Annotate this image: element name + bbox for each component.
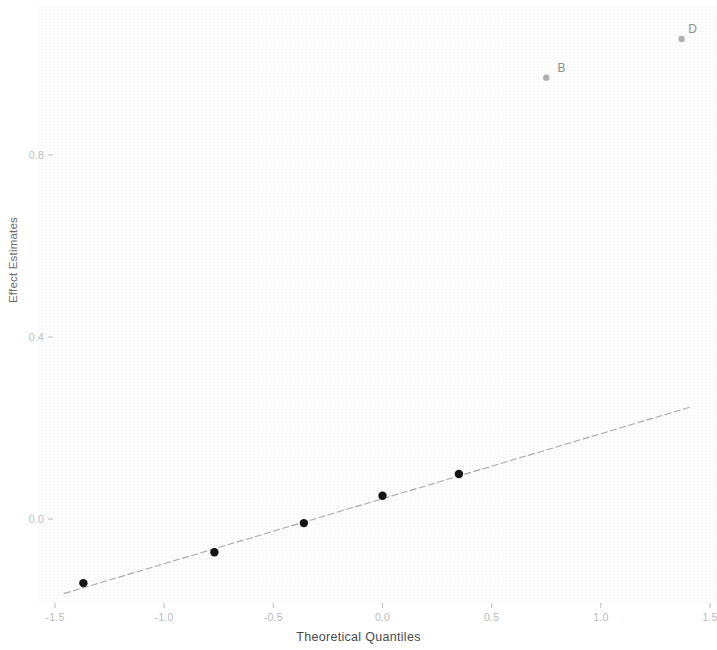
data-point-target[interactable]	[296, 515, 312, 531]
point-label-d: D	[688, 22, 697, 36]
x-axis-title: Theoretical Quantiles	[0, 630, 717, 644]
data-point-target[interactable]	[674, 31, 690, 47]
data-point-target[interactable]	[206, 544, 222, 560]
y-tick-label: 0.0	[8, 513, 44, 525]
data-points-layer	[79, 36, 685, 588]
y-axis-title: Effect Estimates	[7, 195, 19, 325]
data-point-target[interactable]	[75, 575, 91, 591]
x-tick-label: 0.5	[484, 611, 499, 623]
qq-plot-figure: -1.5-1.0-0.50.00.51.01.5 0.00.40.8 BD Th…	[0, 0, 717, 650]
x-tick-label: -0.5	[264, 611, 283, 623]
x-tick-label: 1.5	[702, 611, 717, 623]
x-tick-label: -1.0	[155, 611, 174, 623]
point-label-b: B	[558, 61, 566, 75]
x-tick-label: 0.0	[375, 611, 390, 623]
data-point-target[interactable]	[538, 70, 554, 86]
x-tick-label: -1.5	[46, 611, 65, 623]
axis-tick-marks	[48, 155, 710, 608]
plot-drawing-layer	[0, 0, 717, 650]
y-tick-label: 0.8	[8, 149, 44, 161]
y-tick-label: 0.4	[8, 331, 44, 343]
x-tick-label: 1.0	[593, 611, 608, 623]
data-point-target[interactable]	[451, 466, 467, 482]
data-point-target[interactable]	[375, 488, 391, 504]
